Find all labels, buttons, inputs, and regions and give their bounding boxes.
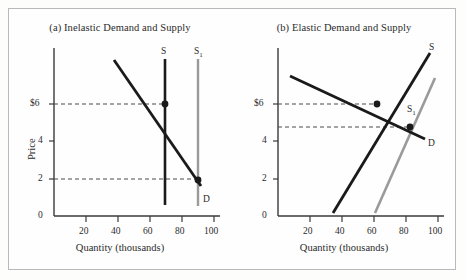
panel-a-ylabel-2: 2	[38, 173, 43, 183]
panel-b-xlabel-100: 100	[428, 226, 442, 236]
panel-a-label-supply-shifted: S1	[194, 46, 203, 59]
panel-a-xlabel-60: 60	[143, 226, 153, 236]
panel-b-equilibrium-original	[374, 101, 381, 108]
panel-b-label-supply-shifted: S1	[407, 104, 416, 117]
panel-a-xlabel-100: 100	[204, 226, 218, 236]
panel-b-label-demand: D	[428, 138, 435, 148]
panel-b-equilibrium-shifted	[407, 124, 414, 131]
panel-elastic: (b) Elastic Demand and Supply $6	[232, 8, 456, 270]
panel-b-supply-shifted-curve	[375, 78, 435, 213]
panel-b-xlabel-80: 80	[399, 226, 409, 236]
panel-b-label-supply: S	[429, 42, 434, 52]
panel-b-xlabel-60: 60	[367, 226, 377, 236]
panel-b-axis-title-x: Quantity (thousands)	[232, 242, 456, 253]
panel-a-label-demand: D	[203, 194, 210, 204]
panel-a-xlabel-40: 40	[111, 226, 121, 236]
panel-a-demand-curve	[114, 60, 201, 186]
panel-b-ylabel-0: 0	[262, 210, 267, 220]
panel-b-xlabel-40: 40	[335, 226, 345, 236]
panel-a-ylabel-0: 0	[38, 210, 43, 220]
panel-a-xlabel-80: 80	[175, 226, 185, 236]
panel-a-ylabel-4: 4	[38, 135, 43, 145]
panel-inelastic: (a) Inelastic Demand and Supply	[8, 8, 232, 270]
panel-a-equilibrium-original	[162, 101, 169, 108]
panel-a-axis-title-y: Price	[26, 138, 37, 160]
panel-b-ylabel-2: 2	[262, 173, 267, 183]
panel-a-equilibrium-shifted	[195, 177, 202, 184]
panel-a-ylabel-6: $6	[30, 98, 40, 108]
panel-b-ylabel-6: $6	[254, 98, 264, 108]
panel-b-demand-curve	[290, 76, 425, 139]
panel-a-xlabel-20: 20	[79, 226, 89, 236]
panel-b-ylabel-4: 4	[262, 135, 267, 145]
figure-root: (a) Inelastic Demand and Supply	[0, 0, 466, 280]
panel-b-xlabel-20: 20	[303, 226, 313, 236]
panel-a-label-supply: S	[161, 46, 166, 56]
panel-a-axis-title-x: Quantity (thousands)	[8, 242, 232, 253]
